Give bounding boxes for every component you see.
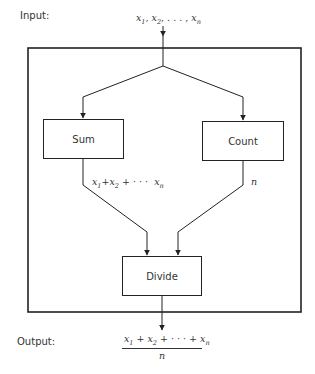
output-denominator: n — [122, 349, 202, 361]
input-label: Input: — [20, 10, 49, 21]
count-label: Count — [228, 136, 258, 147]
output-numerator: x1 + x2 + · · · + xn — [122, 333, 202, 349]
input-expression: x1, x2, . . . , xn — [136, 12, 201, 26]
output-label: Output: — [17, 336, 55, 347]
divide-label: Divide — [146, 271, 178, 282]
count-output-expression: n — [251, 176, 257, 187]
sum-output-expression: x1+x2 + · · · xn — [92, 176, 164, 190]
sum-box: Sum — [43, 119, 124, 159]
output-expression: x1 + x2 + · · · + xn n — [122, 333, 202, 361]
sum-label: Sum — [72, 134, 94, 145]
count-box: Count — [202, 121, 284, 161]
divide-box: Divide — [122, 256, 202, 296]
